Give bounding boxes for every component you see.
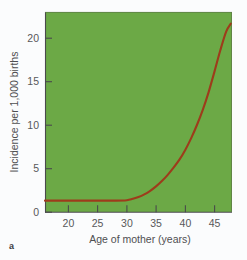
x-tick-label-45: 45: [209, 217, 221, 229]
y-tick-label-10: 10: [27, 119, 39, 131]
x-tick-label-35: 35: [150, 217, 162, 229]
y-tick-label-0: 0: [33, 206, 39, 218]
x-tick-label-30: 30: [121, 217, 133, 229]
y-tick-label-5: 5: [33, 162, 39, 174]
figure-panel: 0 5 10 15 20 20 25 30 35 40 45 Age of mo…: [0, 0, 247, 260]
incidence-vs-maternal-age-chart: 0 5 10 15 20 20 25 30 35 40 45 Age of mo…: [0, 0, 247, 260]
plot-texture-overlay: [45, 12, 232, 212]
x-tick-label-20: 20: [63, 217, 75, 229]
x-axis-title: Age of mother (years): [89, 233, 191, 245]
y-tick-label-15: 15: [27, 75, 39, 87]
y-tick-label-20: 20: [27, 32, 39, 44]
y-axis-title: Incidence per 1,000 births: [8, 52, 20, 173]
x-tick-label-40: 40: [180, 217, 192, 229]
panel-letter-label: a: [9, 241, 15, 251]
x-tick-label-25: 25: [92, 217, 104, 229]
